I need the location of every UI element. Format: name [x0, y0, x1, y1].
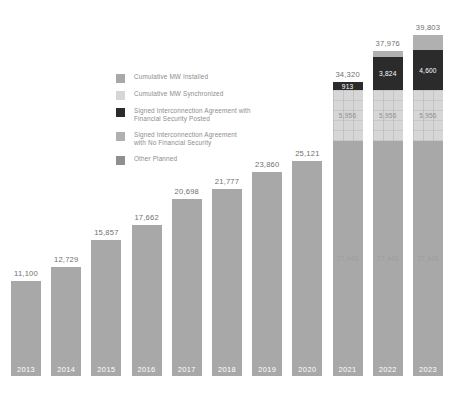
legend-item-label: Cumulative MW Synchronized	[134, 90, 224, 98]
bar-total-label: 11,100	[0, 269, 55, 278]
bar-total-label: 17,662	[118, 213, 176, 222]
segment-value-label: 5,956	[373, 112, 403, 119]
bar-stack	[51, 267, 81, 376]
x-axis-tick-label: 2023	[413, 365, 443, 374]
bar-segment[interactable]	[11, 281, 41, 376]
bar-stack: 7483,8245,95627,448	[373, 51, 403, 376]
x-axis-tick-label: 2013	[11, 365, 41, 374]
segment-value-label: 1,799	[413, 39, 443, 46]
bar-group[interactable]: 12,7292014	[51, 267, 81, 376]
x-axis-tick-label: 2014	[51, 365, 81, 374]
segment-value-label: 5,956	[333, 112, 363, 119]
bar-segment[interactable]	[51, 267, 81, 376]
bar-segment[interactable]: 5,956	[373, 90, 403, 141]
bar-total-label: 15,857	[77, 228, 135, 237]
bar-segment[interactable]	[172, 199, 202, 376]
bar-stack: 9135,95627,448	[333, 82, 363, 376]
bar-segment[interactable]: 27,448	[413, 141, 443, 376]
bar-segment[interactable]	[132, 225, 162, 376]
bar-group[interactable]: 20,6982017	[172, 199, 202, 376]
legend-swatch-icon	[116, 156, 125, 165]
legend-item-label: Signed Interconnection Agreement with Fi…	[134, 107, 251, 124]
legend-item-label: Signed Interconnection Agreement with No…	[134, 131, 237, 148]
segment-value-label: 27,448	[333, 255, 363, 262]
bar-stack	[91, 240, 121, 376]
bar-segment[interactable]: 27,448	[333, 141, 363, 376]
bar-segment[interactable]: 1,799	[413, 35, 443, 50]
segment-value-label: 27,448	[413, 255, 443, 262]
bar-stack	[11, 281, 41, 376]
legend-item[interactable]: Cumulative MW Synchronized	[116, 90, 296, 100]
bar-segment[interactable]	[91, 240, 121, 376]
bar-segment[interactable]	[252, 172, 282, 376]
segment-value-label: 913	[333, 82, 363, 89]
bar-total-label: 21,777	[198, 177, 256, 186]
legend-item[interactable]: Signed Interconnection Agreement with No…	[116, 131, 296, 148]
legend-item-label: Cumulative MW Installed	[134, 73, 208, 81]
legend-swatch-icon	[116, 91, 125, 100]
legend-item-label: Other Planned	[134, 155, 177, 163]
chart-container: 11,100201312,729201415,857201517,6622016…	[0, 0, 451, 393]
legend-swatch-icon	[116, 108, 125, 117]
x-axis-tick-label: 2017	[172, 365, 202, 374]
bar-group[interactable]: 9135,95627,44834,3202021	[333, 82, 363, 376]
bar-segment[interactable]	[292, 161, 322, 376]
bar-group[interactable]: 7483,8245,95627,44837,9762022	[373, 51, 403, 376]
x-axis-tick-label: 2019	[252, 365, 282, 374]
x-axis-tick-label: 2018	[212, 365, 242, 374]
legend-swatch-icon	[116, 132, 125, 141]
bar-group[interactable]: 11,1002013	[11, 281, 41, 376]
bar-group[interactable]: 15,8572015	[91, 240, 121, 376]
x-axis-tick-label: 2020	[292, 365, 322, 374]
bar-group[interactable]: 1,7994,6005,95627,44839,8032023	[413, 35, 443, 376]
bar-total-label: 20,698	[158, 187, 216, 196]
bar-total-label: 37,976	[359, 39, 417, 48]
bar-stack	[292, 161, 322, 376]
bar-segment[interactable]: 4,600	[413, 50, 443, 89]
segment-value-label: 27,448	[373, 255, 403, 262]
x-axis-tick-label: 2022	[373, 365, 403, 374]
bar-stack	[172, 199, 202, 376]
legend-swatch-icon	[116, 74, 125, 83]
segment-value-label: 4,600	[413, 67, 443, 74]
x-axis-tick-label: 2021	[333, 365, 363, 374]
bar-group[interactable]: 25,1212020	[292, 161, 322, 376]
bar-segment[interactable]: 3,824	[373, 57, 403, 90]
legend-item[interactable]: Signed Interconnection Agreement with Fi…	[116, 107, 296, 124]
bar-segment[interactable]	[212, 189, 242, 376]
segment-value-label: 5,956	[413, 112, 443, 119]
bar-segment[interactable]: 27,448	[373, 141, 403, 376]
bar-segment[interactable]: 5,956	[413, 90, 443, 141]
bar-total-label: 34,320	[319, 70, 377, 79]
bar-group[interactable]: 23,8602019	[252, 172, 282, 376]
chart-legend: Cumulative MW InstalledCumulative MW Syn…	[116, 73, 296, 172]
x-axis-tick-label: 2015	[91, 365, 121, 374]
bar-segment[interactable]: 5,956	[333, 90, 363, 141]
bar-segment[interactable]: 913	[333, 82, 363, 90]
legend-item[interactable]: Cumulative MW Installed	[116, 73, 296, 83]
bar-group[interactable]: 21,7772018	[212, 189, 242, 376]
plot-area: 11,100201312,729201415,857201517,6622016…	[0, 0, 451, 393]
x-axis-tick-label: 2016	[132, 365, 162, 374]
bar-total-label: 39,803	[399, 23, 451, 32]
bar-group[interactable]: 17,6622016	[132, 225, 162, 376]
bar-stack	[212, 189, 242, 376]
legend-item[interactable]: Other Planned	[116, 155, 296, 165]
bar-stack	[132, 225, 162, 376]
segment-value-label: 3,824	[373, 70, 403, 77]
bar-total-label: 12,729	[37, 255, 95, 264]
bar-stack	[252, 172, 282, 376]
bar-stack: 1,7994,6005,95627,448	[413, 35, 443, 376]
